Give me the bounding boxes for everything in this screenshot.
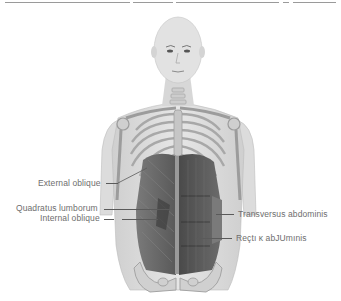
label-rectus-abdominis: Reçtı ĸ abJUmınis — [236, 233, 307, 243]
leader-internal-oblique-2 — [122, 219, 158, 220]
head — [151, 17, 205, 83]
cervical-spine — [170, 88, 186, 104]
label-quadratus-lumborum: Quadratus lumborum — [16, 203, 98, 213]
label-internal-oblique: Internal oblique — [40, 213, 100, 223]
leader-rectus-abdominis — [196, 238, 232, 239]
leader-transversus-abdominis — [216, 214, 234, 215]
label-transversus-abdominis: Transversus abdominis — [238, 209, 328, 219]
leader-quadratus-lumborum — [104, 209, 170, 210]
leader-external-oblique — [106, 183, 118, 184]
label-external-oblique: External oblique — [38, 178, 101, 188]
anatomy-figure — [0, 0, 341, 301]
abdominal-muscles — [136, 154, 222, 275]
sternum — [174, 110, 182, 156]
leader-internal-oblique — [104, 219, 114, 220]
